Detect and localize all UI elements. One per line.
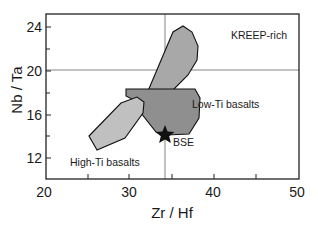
x-axis-ticks: [88, 174, 256, 179]
y-axis-ticks: [46, 27, 51, 158]
label-kreep-rich: KREEP-rich: [231, 29, 287, 41]
x-axis-title: Zr / Hf: [151, 204, 193, 221]
y-axis-title: Nb / Ta: [8, 66, 25, 114]
field-high-ti-basalts: [89, 97, 144, 150]
label-high-ti-basalts: High-Ti basalts: [70, 156, 140, 168]
y-tick-label-24: 24: [26, 19, 42, 35]
y-tick-label-16: 16: [26, 107, 42, 123]
label-low-ti-basalts: Low-Ti basalts: [192, 98, 259, 110]
x-tick-label-40: 40: [205, 184, 221, 200]
y-tick-label-12: 12: [26, 150, 42, 166]
field-kreep-rich: [148, 26, 198, 96]
label-bse: BSE: [173, 136, 194, 148]
x-tick-label-30: 30: [121, 184, 137, 200]
y-tick-label-20: 20: [26, 63, 42, 79]
x-tick-label-20: 20: [36, 184, 52, 200]
discrimination-chart: 24 20 16 12 20 30 40 50 Zr / Hf Nb / Ta …: [0, 0, 318, 227]
x-tick-label-50: 50: [289, 184, 305, 200]
